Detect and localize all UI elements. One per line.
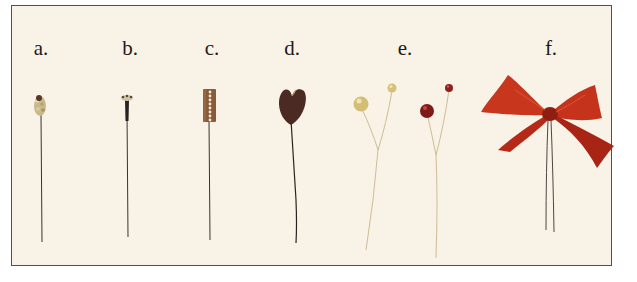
item-d-heart-seed-icon xyxy=(279,89,306,243)
item-e-pearl-picks-icon xyxy=(354,84,454,259)
item-f-ribbon-bow-icon xyxy=(481,75,614,232)
picks-illustration xyxy=(0,0,637,282)
item-c-rect-bead-icon xyxy=(203,89,216,240)
item-a-beaded-cluster-icon xyxy=(34,95,46,242)
item-b-dark-stamen-icon xyxy=(121,95,133,237)
